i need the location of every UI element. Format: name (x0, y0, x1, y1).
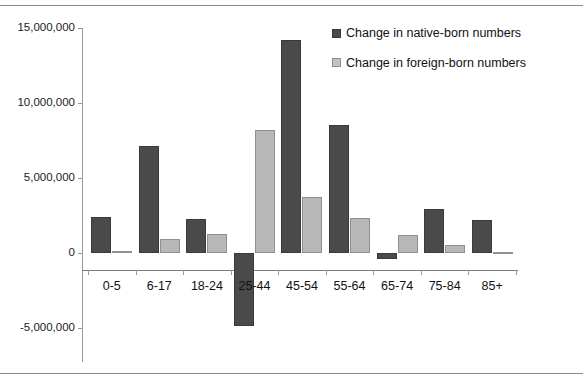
x-category-label: 75-84 (421, 280, 469, 293)
y-tick (78, 28, 83, 29)
figure-bottom-rule (0, 373, 583, 374)
legend-swatch-foreign-icon (332, 58, 341, 67)
x-category-label: 45-54 (278, 280, 326, 293)
x-category-label: 65-74 (373, 280, 421, 293)
bar-foreign[interactable] (445, 245, 465, 253)
y-tick-label: 15,000,000 (17, 22, 75, 34)
bar-native[interactable] (91, 217, 111, 253)
bar-foreign[interactable] (207, 234, 227, 253)
x-category-label: 0-5 (88, 280, 136, 293)
y-tick-label: 10,000,000 (17, 97, 75, 109)
bar-foreign[interactable] (302, 197, 322, 253)
bar-native[interactable] (472, 220, 492, 253)
figure-top-rule (0, 5, 583, 6)
x-category-label: 18-24 (183, 280, 231, 293)
bar-foreign[interactable] (493, 252, 513, 254)
x-category-label: 85+ (468, 280, 516, 293)
bar-foreign[interactable] (112, 251, 132, 253)
bar-foreign[interactable] (255, 130, 275, 253)
bar-foreign[interactable] (350, 218, 370, 252)
bar-foreign[interactable] (398, 235, 418, 253)
legend-swatch-native-icon (332, 29, 341, 38)
bar-group: 6-17 (136, 28, 184, 362)
bar-native[interactable] (186, 219, 206, 253)
bar-native[interactable] (377, 253, 397, 259)
bar-group: 0-5 (88, 28, 136, 362)
y-tick-label: 5,000,000 (24, 172, 75, 184)
legend-label-native: Change in native-born numbers (346, 27, 521, 40)
bar-native[interactable] (139, 146, 159, 252)
bar-group: 25-44 (231, 28, 279, 362)
y-tick (78, 178, 83, 179)
y-tick (78, 103, 83, 104)
bar-native[interactable] (424, 209, 444, 252)
y-tick (78, 328, 83, 329)
y-tick-label: -5,000,000 (20, 322, 75, 334)
bar-group: 18-24 (183, 28, 231, 362)
bar-group: 45-54 (278, 28, 326, 362)
x-tick (516, 270, 517, 275)
chart-figure: 15,000,00010,000,0005,000,0000-5,000,000… (0, 0, 583, 379)
x-category-label: 55-64 (326, 280, 374, 293)
legend-item-foreign[interactable]: Change in foreign-born numbers (332, 57, 572, 70)
y-tick (78, 253, 83, 254)
x-category-label: 6-17 (136, 280, 184, 293)
x-category-label: 25-44 (231, 280, 279, 293)
bar-native[interactable] (281, 40, 301, 253)
bar-foreign[interactable] (160, 239, 180, 252)
chart-legend: Change in native-born numbers Change in … (332, 27, 572, 86)
legend-label-foreign: Change in foreign-born numbers (346, 57, 526, 70)
y-tick-label: 0 (69, 247, 75, 259)
y-axis-line (82, 28, 83, 362)
bar-native[interactable] (329, 125, 349, 252)
legend-item-native[interactable]: Change in native-born numbers (332, 27, 572, 40)
